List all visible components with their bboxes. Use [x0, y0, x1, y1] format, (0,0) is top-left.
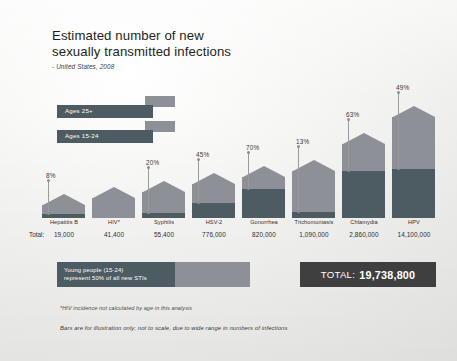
- total-value: 1,090,000: [286, 231, 342, 238]
- young-people-callout: Young people (15-24) represent 50% of al…: [57, 262, 250, 287]
- pct-leader-line: [298, 146, 299, 212]
- category-label: Trichomoniasis: [286, 219, 342, 225]
- footnote-scale: Bars are for illustration only; not to s…: [60, 325, 288, 331]
- bar-segment-ages-25-plus: [92, 198, 135, 218]
- legend-label-ages-15-24: Ages 15-24: [65, 132, 99, 139]
- page-subtitle: - United States, 2008: [52, 63, 312, 70]
- category-label: HIV*: [86, 219, 142, 225]
- total-value: 14,100,000: [386, 231, 442, 238]
- total-value: 820,000: [236, 231, 292, 238]
- category-label: Chlamydia: [336, 219, 392, 225]
- total-value: 55,400: [136, 231, 192, 238]
- pct-label: 70%: [246, 144, 259, 151]
- young-people-text: Young people (15-24) represent 50% of al…: [57, 266, 147, 283]
- pct-leader-line: [48, 180, 49, 214]
- pct-leader-line: [348, 119, 349, 171]
- category-label: HPV: [386, 219, 442, 225]
- pct-leader-line: [148, 167, 149, 213]
- category-label: Gonorrhea: [236, 219, 292, 225]
- bar-segment-ages-15-24: [392, 169, 435, 218]
- category-label: HSV-2: [186, 219, 242, 225]
- legend-label-ages-25-plus: Ages 25+: [65, 107, 93, 114]
- young-people-line-2: represent 50% of all new STIs: [57, 274, 147, 282]
- pct-label: 20%: [146, 159, 159, 166]
- pct-leader-line: [398, 92, 399, 169]
- footnote-hiv: *HIV incidence not calculated by age in …: [60, 305, 192, 311]
- legend-item-ages-25-plus: Ages 25+: [57, 96, 153, 114]
- bar-segment-ages-15-24: [242, 189, 285, 218]
- pct-label: 45%: [196, 151, 209, 158]
- pct-label: 8%: [46, 172, 56, 179]
- pct-leader-line: [198, 159, 199, 203]
- page-title-line-2: sexually transmitted infections: [52, 44, 312, 60]
- category-label: Hepatitis B: [36, 219, 92, 225]
- total-value: 19,000: [36, 231, 92, 238]
- totals-row: Total: 19,00041,40055,400776,000820,0001…: [30, 231, 442, 243]
- total-value: 2,860,000: [336, 231, 392, 238]
- total-value: 776,000: [186, 231, 242, 238]
- bar-segment-ages-15-24: [342, 171, 385, 218]
- category-label: Syphilis: [136, 219, 192, 225]
- pct-leader-line: [248, 152, 249, 189]
- pct-label: 13%: [296, 138, 309, 145]
- grand-total-label: TOTAL:: [321, 269, 356, 280]
- young-people-line-1: Young people (15-24): [57, 266, 147, 274]
- title-block: Estimated number of new sexually transmi…: [52, 28, 312, 70]
- grand-total-value: 19,738,800: [359, 269, 415, 281]
- page-title-line-1: Estimated number of new: [52, 28, 312, 44]
- bar-chart: 8%20%45%70%13%63%49%: [30, 130, 442, 218]
- bar-shape: [92, 187, 135, 218]
- grand-total-box: TOTAL: 19,738,800: [300, 262, 436, 287]
- total-value: 41,400: [86, 231, 142, 238]
- pct-label: 63%: [346, 111, 359, 118]
- infographic-poster: Estimated number of new sexually transmi…: [0, 0, 457, 361]
- bar-cap: [93, 187, 135, 198]
- category-label-row: Hepatitis BHIV*SyphilisHSV-2GonorrheaTri…: [30, 219, 442, 230]
- bar-segment-ages-15-24: [192, 203, 235, 218]
- pct-label: 49%: [396, 84, 409, 91]
- bar-hiv: [92, 187, 135, 218]
